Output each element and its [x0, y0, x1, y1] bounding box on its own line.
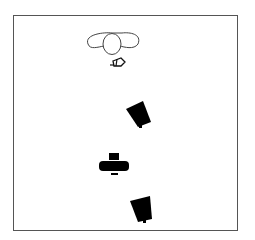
lighting-diagram — [0, 0, 255, 240]
subject-icon — [87, 33, 138, 55]
small-light-icon — [110, 58, 125, 66]
softbox-light-2-icon — [130, 196, 152, 223]
softbox-light-1-icon — [126, 101, 151, 128]
camera-icon — [99, 153, 129, 175]
